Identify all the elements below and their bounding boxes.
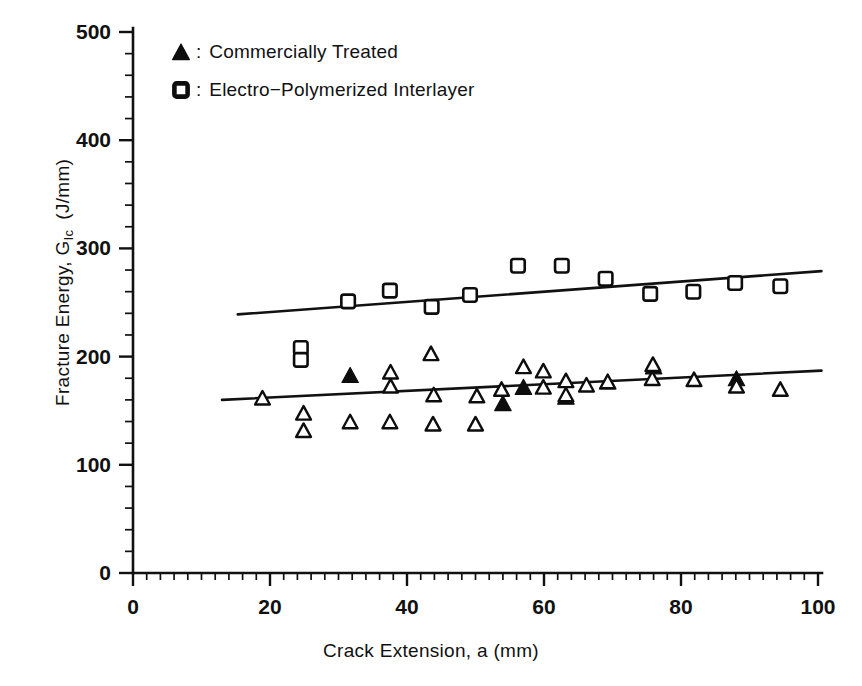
data-point-open-triangle (516, 360, 531, 374)
y-tick-label: 100 (76, 453, 111, 476)
data-point-open-triangle (469, 389, 484, 403)
x-tick-label: 40 (395, 595, 418, 618)
data-point-open-triangle (424, 347, 439, 361)
data-point-open-square (294, 353, 308, 367)
tick-labels-group: 0204060801000100200300400500 (76, 20, 836, 618)
data-point-open-square (383, 284, 397, 298)
legend-label-0: Commercially Treated (209, 41, 398, 63)
data-point-open-square (425, 300, 439, 314)
data-point-open-square (687, 285, 701, 299)
data-point-open-triangle (646, 357, 661, 371)
y-tick-label: 400 (76, 128, 111, 151)
data-point-open-square (599, 272, 613, 286)
x-tick-label: 0 (127, 595, 139, 618)
legend-label-1: Electro−Polymerized Interlayer (209, 79, 474, 101)
y-axis-title: Fracture Energy, GIc(J/mm) (52, 159, 77, 406)
x-tick-label: 20 (258, 595, 281, 618)
data-point-open-square (774, 280, 788, 294)
data-point-open-triangle (536, 380, 551, 394)
y-tick-label: 0 (99, 561, 111, 584)
filled-triangle-icon (168, 43, 194, 61)
data-point-open-triangle (559, 388, 574, 402)
data-point-filled-triangle (495, 396, 511, 411)
data-point-open-square (463, 288, 477, 302)
data-point-open-triangle (687, 373, 702, 387)
data-point-open-square (555, 259, 569, 273)
legend-entry-electro-polymerized-interlayer: : Electro−Polymerized Interlayer (168, 71, 598, 109)
x-axis-title: Crack Extension, a (mm) (0, 640, 862, 662)
open-square-icon (168, 81, 194, 99)
data-point-open-square (511, 259, 524, 273)
figure-canvas: 0204060801000100200300400500 : Commercia… (0, 0, 862, 686)
data-point-open-triangle (559, 374, 574, 388)
x-tick-label: 100 (800, 595, 835, 618)
legend-entry-commercially-treated: : Commercially Treated (168, 33, 598, 71)
y-tick-label: 200 (76, 345, 111, 368)
data-point-open-square (643, 287, 657, 301)
data-point-open-triangle (468, 417, 483, 431)
y-axis-title-wrapper: Fracture Energy, GIc(J/mm) (52, 22, 77, 542)
x-tick-label: 60 (532, 595, 555, 618)
y-axis-title-prefix: Fracture Energy, G (52, 240, 73, 406)
data-point-open-square (728, 276, 742, 290)
y-tick-label: 500 (76, 20, 111, 43)
data-points-group (255, 259, 788, 437)
data-point-open-triangle (426, 417, 441, 431)
legend-separator-0: : (194, 41, 209, 63)
data-point-open-triangle (494, 382, 509, 396)
data-point-filled-triangle (515, 379, 531, 394)
axes-group (119, 28, 822, 586)
y-axis-title-units: (J/mm) (52, 159, 73, 220)
data-point-open-triangle (383, 379, 398, 393)
data-point-filled-triangle (342, 367, 358, 382)
legend: : Commercially Treated : Electro−Polymer… (168, 33, 598, 109)
data-point-open-square (341, 295, 355, 309)
data-point-open-triangle (536, 364, 551, 378)
data-point-open-triangle (773, 382, 788, 396)
data-point-open-triangle (383, 365, 398, 379)
y-tick-label: 300 (76, 236, 111, 259)
y-axis-title-subscript: Ic (61, 230, 76, 241)
data-point-open-triangle (343, 415, 358, 429)
data-point-open-triangle (296, 423, 311, 437)
x-tick-label: 80 (669, 595, 692, 618)
data-point-open-triangle (296, 406, 311, 420)
data-point-open-triangle (382, 415, 397, 429)
legend-separator-1: : (194, 79, 209, 101)
data-point-open-triangle (579, 378, 594, 392)
